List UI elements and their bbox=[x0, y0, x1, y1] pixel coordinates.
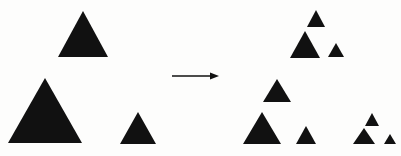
fractal-diagram-canvas bbox=[0, 0, 401, 156]
fractal-diagram-figure bbox=[0, 0, 401, 156]
right-top-cluster-top-triangle bbox=[307, 10, 325, 27]
right-bottom-left-cluster bbox=[243, 79, 316, 144]
transform-arrow-group bbox=[172, 73, 219, 80]
right-top-cluster-bottom-right-triangle bbox=[328, 43, 344, 57]
right-top-cluster bbox=[290, 10, 344, 58]
left-input-set-group bbox=[8, 11, 156, 144]
right-bottom-right-cluster-bottom-right-triangle bbox=[384, 134, 396, 144]
left-top-triangle bbox=[58, 11, 108, 57]
right-top-cluster-bottom-left-triangle bbox=[290, 31, 320, 58]
right-bottom-left-cluster-bottom-left-triangle bbox=[243, 112, 281, 144]
right-bottom-left-cluster-top-triangle bbox=[263, 79, 291, 102]
right-output-set-group bbox=[243, 10, 396, 144]
left-bottom-left-triangle bbox=[8, 78, 82, 143]
left-input-set bbox=[8, 11, 156, 144]
left-bottom-right-triangle bbox=[120, 112, 156, 144]
transform-arrow-head bbox=[210, 73, 219, 80]
right-bottom-right-cluster-top-triangle bbox=[365, 113, 379, 126]
right-bottom-left-cluster-bottom-right-triangle bbox=[296, 126, 316, 144]
right-bottom-right-cluster-bottom-left-triangle bbox=[353, 128, 375, 144]
right-bottom-right-cluster bbox=[353, 113, 396, 144]
